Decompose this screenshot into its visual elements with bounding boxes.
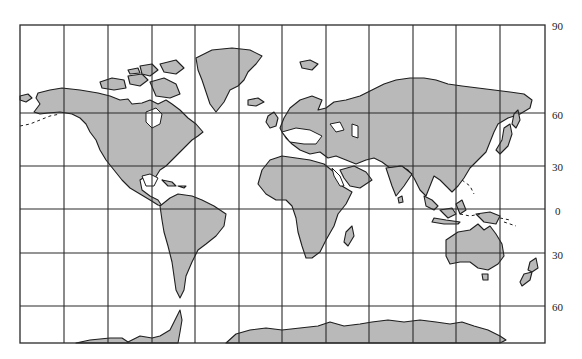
latitude-label-90n: 90	[552, 20, 563, 32]
latitude-label-60n: 60	[552, 109, 563, 121]
landmasses	[20, 48, 538, 343]
latitude-label-30s: 30	[552, 249, 563, 261]
latitude-label-60s: 60	[552, 301, 563, 313]
africa	[258, 156, 352, 258]
indonesia	[424, 196, 438, 210]
japan	[496, 124, 512, 154]
new-zealand	[520, 258, 538, 286]
british-isles	[266, 112, 278, 128]
latitude-label-30n: 30	[552, 161, 563, 173]
madagascar	[344, 226, 354, 246]
north-america	[34, 88, 203, 206]
australia	[446, 224, 504, 270]
iceland	[248, 98, 264, 106]
graticule	[20, 25, 545, 343]
latitude-label-0: 0	[555, 205, 561, 217]
south-america	[160, 194, 226, 298]
antarctica	[76, 310, 182, 343]
world-map	[0, 0, 582, 359]
